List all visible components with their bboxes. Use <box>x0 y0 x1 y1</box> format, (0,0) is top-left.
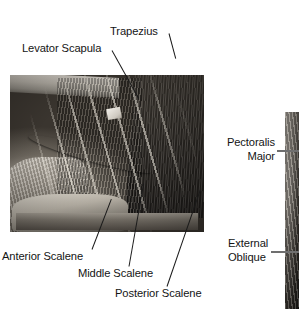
label-external-oblique-line2: Oblique <box>228 251 266 263</box>
label-middle-scalene: Middle Scalene <box>78 267 153 281</box>
label-external-oblique: External Oblique <box>228 237 288 264</box>
label-anterior-scalene: Anterior Scalene <box>2 250 83 264</box>
leader-line-pectoralis-major <box>277 150 299 152</box>
label-pectoralis-major: Pectoralis Major <box>198 136 275 163</box>
label-trapezius: Trapezius <box>110 25 158 39</box>
anatomy-figure: Trapezius Levator Scapula Anterior Scale… <box>0 0 299 309</box>
torso-dissection-photo <box>285 112 299 309</box>
torso-shading <box>285 112 299 309</box>
label-pectoralis-major-line1: Pectoralis <box>227 136 275 148</box>
label-external-oblique-line1: External <box>228 237 268 249</box>
leader-line-trapezius <box>169 33 177 58</box>
label-posterior-scalene: Posterior Scalene <box>115 287 202 301</box>
label-pectoralis-major-line2: Major <box>248 150 275 162</box>
label-levator-scapula: Levator Scapula <box>22 42 101 56</box>
